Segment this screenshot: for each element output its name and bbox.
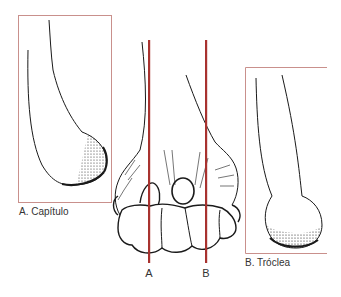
panel-a-box: [19, 16, 112, 203]
section-line-a-label: A: [139, 267, 159, 279]
section-line-b-label: B: [196, 267, 216, 279]
section-line-b: [205, 40, 207, 263]
panel-b-caption: B. Tróclea: [245, 257, 290, 268]
elbow-section-diagram: A. Capítulo B. Tróclea A B: [0, 0, 341, 297]
panel-a-caption: A. Capítulo: [19, 206, 68, 217]
diagram-svg: [0, 0, 341, 297]
humerus-drawing: [114, 42, 241, 253]
panel-b-box: [246, 68, 328, 254]
section-line-a: [148, 40, 150, 263]
